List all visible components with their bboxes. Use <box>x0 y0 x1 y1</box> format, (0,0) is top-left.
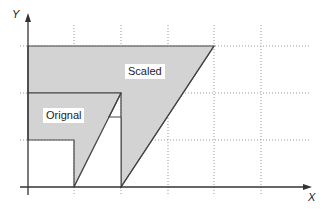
scaling-diagram: Y X Scaled Orignal <box>0 0 330 209</box>
original-label: Orignal <box>43 108 84 123</box>
diagram-canvas <box>0 0 330 209</box>
x-axis-label: X <box>308 191 315 203</box>
scaled-label: Scaled <box>125 64 165 79</box>
y-axis-label: Y <box>12 8 19 20</box>
